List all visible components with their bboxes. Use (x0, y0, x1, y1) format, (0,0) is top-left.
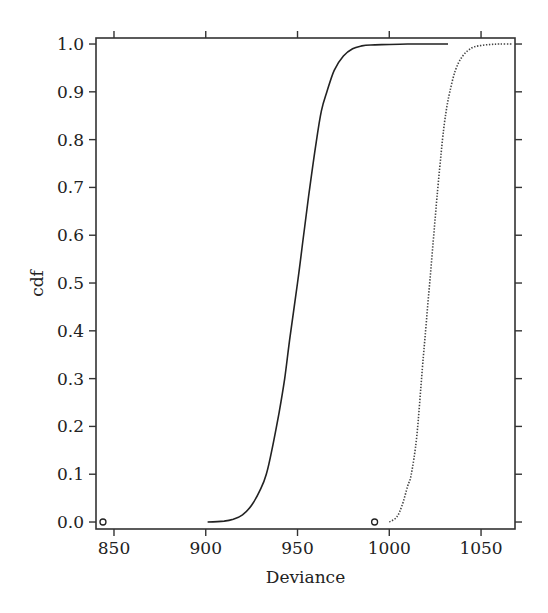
y-tick-label: 0.9 (57, 82, 84, 102)
data-markers (100, 519, 378, 525)
open-circle-marker (372, 519, 378, 525)
y-axis-ticks: 0.00.10.20.30.40.50.60.70.80.91.0 (57, 34, 522, 532)
open-circle-marker (100, 519, 106, 525)
y-tick-label: 0.4 (57, 321, 84, 341)
plot-frame-group (96, 38, 515, 529)
y-tick-label: 0.1 (57, 464, 84, 484)
x-tick-label: 850 (98, 538, 130, 558)
x-axis-ticks: 85090095010001050 (98, 31, 503, 558)
y-tick-label: 0.3 (57, 369, 84, 389)
y-axis-title: cdf (27, 268, 47, 296)
y-tick-label: 0.6 (57, 225, 84, 245)
cdf-curve-solid (208, 44, 448, 522)
y-tick-label: 0.2 (57, 416, 84, 436)
y-tick-label: 1.0 (57, 34, 84, 54)
y-tick-label: 0.7 (57, 177, 84, 197)
y-tick-label: 0.0 (57, 512, 84, 532)
plot-frame (96, 38, 515, 529)
y-tick-label: 0.5 (57, 273, 84, 293)
x-tick-label: 1000 (368, 538, 411, 558)
y-tick-label: 0.8 (57, 130, 84, 150)
data-series (208, 44, 513, 522)
x-tick-label: 900 (190, 538, 222, 558)
cdf-curve-dotted (389, 44, 512, 522)
cdf-chart: 85090095010001050 0.00.10.20.30.40.50.60… (0, 0, 548, 613)
x-tick-label: 1050 (459, 538, 502, 558)
x-tick-label: 950 (281, 538, 313, 558)
x-axis-title: Deviance (266, 567, 345, 587)
